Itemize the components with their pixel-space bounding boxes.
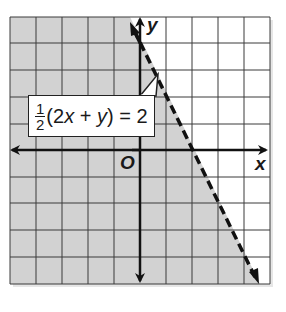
variable-x: x — [64, 105, 74, 128]
variable-y: y — [97, 105, 107, 128]
fraction: 1 2 — [35, 101, 45, 132]
coordinate-plane — [0, 0, 286, 312]
x-axis-label: x — [255, 153, 266, 175]
origin-label: O — [120, 152, 135, 174]
y-axis-label: y — [147, 14, 158, 36]
fraction-denominator: 2 — [36, 117, 44, 132]
expression-close: ) = 2 — [107, 105, 148, 128]
equation-label: 1 2 (2x + y) = 2 — [28, 95, 155, 137]
plus-sign: + — [74, 105, 97, 128]
expression-open: (2 — [46, 105, 64, 128]
fraction-numerator: 1 — [35, 101, 45, 117]
